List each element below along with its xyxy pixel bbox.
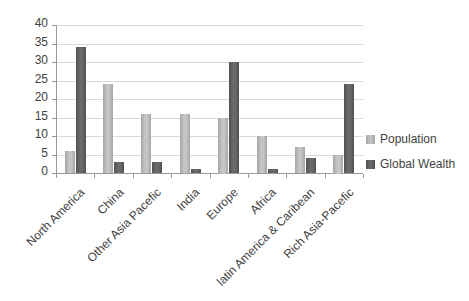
gridline <box>56 25 363 26</box>
bar-population <box>257 136 267 173</box>
x-axis-tick <box>56 174 57 178</box>
gridline <box>56 81 363 82</box>
bar-population <box>295 147 305 173</box>
y-axis-tick-label: 10 <box>20 128 48 142</box>
bar-global-wealth <box>191 169 201 173</box>
x-axis-tick <box>286 174 287 178</box>
x-axis-tick <box>363 174 364 178</box>
x-axis-tick <box>94 174 95 178</box>
y-axis-tick-label: 25 <box>20 73 48 87</box>
x-axis-category-label: China <box>95 186 127 218</box>
x-axis-category-label: Rich Asia-Pacefic <box>281 186 357 262</box>
x-axis-tick <box>248 174 249 178</box>
y-axis-tick-label: 40 <box>20 17 48 31</box>
x-axis-category-label: Other Asia Pacefic <box>85 186 165 266</box>
bar-population <box>65 151 75 173</box>
gridline <box>56 44 363 45</box>
bar-global-wealth <box>114 162 124 173</box>
legend-label-population: Population <box>380 133 437 147</box>
x-axis-category-label: North America <box>24 186 88 250</box>
bar-population <box>333 155 343 174</box>
bar-population <box>180 114 190 173</box>
bar-global-wealth <box>268 169 278 173</box>
bar-population <box>141 114 151 173</box>
x-axis-tick <box>325 174 326 178</box>
y-axis-tick-label: 35 <box>20 36 48 50</box>
global-wealth-swatch-icon <box>366 160 375 169</box>
bar-global-wealth <box>152 162 162 173</box>
legend-label-global-wealth: Global Wealth <box>380 158 455 172</box>
legend: Population Global Wealth <box>366 133 455 183</box>
bar-chart: Population Global Wealth 051015202530354… <box>0 0 469 301</box>
bar-population <box>103 84 113 173</box>
x-axis-line <box>52 173 363 174</box>
gridline <box>56 62 363 63</box>
legend-item-global-wealth: Global Wealth <box>366 158 455 172</box>
x-axis-category-label: Europe <box>205 186 242 223</box>
y-axis-tick-label: 15 <box>20 110 48 124</box>
legend-item-population: Population <box>366 133 455 147</box>
x-axis-tick <box>171 174 172 178</box>
y-axis-tick-label: 0 <box>20 165 48 179</box>
bar-population <box>218 118 228 174</box>
bar-global-wealth <box>76 47 86 173</box>
x-axis-tick <box>133 174 134 178</box>
x-axis-category-label: India <box>175 186 203 214</box>
x-axis-category-label: Africa <box>248 186 279 217</box>
y-axis-tick-label: 5 <box>20 147 48 161</box>
y-axis-tick-label: 20 <box>20 91 48 105</box>
bar-global-wealth <box>306 158 316 173</box>
y-axis-tick-label: 30 <box>20 54 48 68</box>
y-axis-line <box>56 25 57 174</box>
bar-global-wealth <box>344 84 354 173</box>
population-swatch-icon <box>366 135 375 144</box>
x-axis-tick <box>210 174 211 178</box>
bar-global-wealth <box>229 62 239 173</box>
